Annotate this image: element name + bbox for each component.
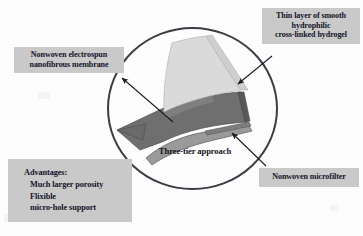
advantages-item-2: micro-hole support [8, 202, 132, 214]
callout-microfilter: Nonwoven microfilter [259, 168, 359, 187]
callout-hydrogel-line1: Thin layer of smooth [276, 11, 346, 20]
advantages-heading: Advantages: [8, 167, 132, 179]
callout-nanofibrous: Nonwoven electrospun nanofibrous membran… [14, 47, 124, 73]
advantages-item-1: Flixible [8, 191, 132, 203]
figure-container: Three-tier approach Thin layer of smooth… [0, 0, 363, 236]
advantages-item-0: Much larger porosity [8, 179, 132, 191]
callout-hydrogel-line3: cross-linked hydrogel [275, 30, 347, 39]
callout-hydrogel: Thin layer of smooth hydrophilic cross-l… [262, 8, 360, 44]
callout-advantages: Advantages: Much larger porosity Flixibl… [8, 159, 132, 222]
center-caption: Three-tier approach [143, 146, 247, 156]
callout-nanofibrous-line2: nanofibrous membrane [29, 60, 108, 69]
callout-microfilter-line1: Nonwoven microfilter [272, 172, 346, 181]
callout-hydrogel-line2: hydrophilic [292, 21, 331, 30]
callout-nanofibrous-line1: Nonwoven electrospun [31, 50, 107, 59]
